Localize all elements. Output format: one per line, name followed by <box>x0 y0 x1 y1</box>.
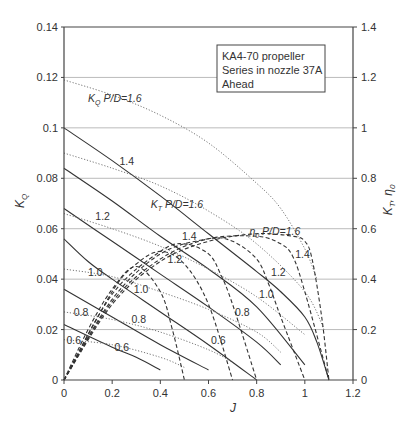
curve-labels: KQ P/D=1.61.4KT P/D=1.61.21.41.21.01.00.… <box>66 92 310 354</box>
y-tick-left: 0.02 <box>37 324 58 336</box>
svg-text:KQ: KQ <box>13 194 29 208</box>
y-tick-left: 0.14 <box>37 21 58 33</box>
y-tick-left: 0.12 <box>37 71 58 83</box>
y-tick-right: 1 <box>361 122 367 134</box>
y-tick-right: 0.8 <box>361 172 376 184</box>
series-curve <box>64 80 317 279</box>
series-curve <box>64 238 305 380</box>
svg-text:KT, η0: KT, η0 <box>381 184 397 215</box>
right-axis-label: KT, η0 <box>381 184 397 215</box>
y-tick-right: 0 <box>361 374 367 386</box>
series-curve <box>64 236 329 380</box>
curve-label: 1.0 <box>134 283 149 295</box>
x-tick: 0.2 <box>105 387 120 399</box>
curve-label: KT P/D=1.6 <box>151 198 204 212</box>
y-tick-right: 0.2 <box>361 324 376 336</box>
y-tick-right: 1.2 <box>361 71 376 83</box>
curve-label: 0.6 <box>66 334 81 346</box>
series-curve <box>64 312 233 362</box>
curve-label: 0.6 <box>115 341 130 353</box>
series-curve <box>64 234 329 380</box>
gridlines <box>64 77 353 329</box>
series-curve <box>64 239 257 380</box>
x-tick: 0.8 <box>249 387 264 399</box>
y-tick-left: 0.1 <box>43 122 58 134</box>
y-tick-left: 0 <box>52 374 58 386</box>
x-tick: 0.6 <box>201 387 216 399</box>
curve-label: 1.4 <box>119 155 134 167</box>
y-tick-left: 0.04 <box>37 273 58 285</box>
x-tick: 1.2 <box>345 387 360 399</box>
propeller-chart: 00.020.040.060.080.10.120.1400.20.40.60.… <box>0 0 409 431</box>
series-curve <box>64 267 184 380</box>
series-curve <box>64 209 281 365</box>
y-tick-left: 0.06 <box>37 223 58 235</box>
curve-label: 1.0 <box>88 266 103 278</box>
y-tick-right: 1.4 <box>361 21 376 33</box>
x-axis-label: J <box>229 401 237 415</box>
series-curve <box>64 325 160 370</box>
y-tick-left: 0.08 <box>37 172 58 184</box>
x-tick: 1 <box>302 387 308 399</box>
curve-label: 1.2 <box>168 253 183 265</box>
curve-label: 0.8 <box>74 306 89 318</box>
curve-label: 1.2 <box>95 210 110 222</box>
curve-label: 1.0 <box>259 288 274 300</box>
curve-label: KQ P/D=1.6 <box>88 92 142 107</box>
y-tick-right: 0.6 <box>361 223 376 235</box>
legend-line-1: KA4-70 propeller <box>222 50 305 62</box>
curve-label: 0.8 <box>235 306 250 318</box>
curve-label: η0 P/D=1.6 <box>249 225 300 239</box>
curve-label: 0.8 <box>131 313 146 325</box>
legend-box: KA4-70 propeller Series in nozzle 37A Ah… <box>217 45 325 92</box>
left-axis-label: KQ <box>13 194 29 208</box>
x-tick: 0 <box>61 387 67 399</box>
legend-line-2: Series in nozzle 37A <box>222 64 323 76</box>
series-curve <box>64 128 329 380</box>
curve-label: 1.4 <box>182 230 197 242</box>
x-tick: 0.4 <box>153 387 168 399</box>
curve-label: 1.2 <box>271 266 286 278</box>
y-tick-right: 0.4 <box>361 273 376 285</box>
curve-label: 0.6 <box>211 334 226 346</box>
legend-line-3: Ahead <box>222 78 254 90</box>
curve-label: 1.4 <box>295 248 310 260</box>
